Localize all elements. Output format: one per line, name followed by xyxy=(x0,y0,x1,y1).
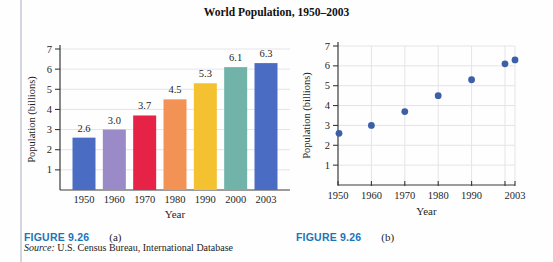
svg-text:5: 5 xyxy=(325,80,330,91)
svg-text:Population (billions): Population (billions) xyxy=(26,76,38,163)
scatter-plot: 1234567195019601970198019902003YearPopul… xyxy=(300,34,544,226)
svg-text:7: 7 xyxy=(325,41,330,52)
svg-text:6: 6 xyxy=(47,64,52,75)
svg-text:6.3: 6.3 xyxy=(259,48,272,59)
svg-text:2: 2 xyxy=(325,140,330,151)
figure-sublabel-b: (b) xyxy=(381,231,394,243)
svg-text:3: 3 xyxy=(47,124,52,135)
svg-text:1990: 1990 xyxy=(195,194,216,205)
svg-text:1970: 1970 xyxy=(394,190,415,201)
svg-text:2: 2 xyxy=(47,144,52,155)
svg-text:1: 1 xyxy=(325,160,330,171)
bar-chart: 12345672.619503.019603.719704.519805.319… xyxy=(24,36,296,228)
svg-text:1: 1 xyxy=(47,164,52,175)
svg-text:4: 4 xyxy=(47,104,53,115)
svg-text:2003: 2003 xyxy=(256,194,277,205)
svg-text:1950: 1950 xyxy=(74,194,95,205)
svg-text:1960: 1960 xyxy=(104,194,125,205)
svg-text:1970: 1970 xyxy=(134,194,155,205)
svg-text:2003: 2003 xyxy=(505,190,526,201)
svg-text:5: 5 xyxy=(47,84,52,95)
svg-text:2000: 2000 xyxy=(225,194,246,205)
svg-text:1990: 1990 xyxy=(461,190,482,201)
svg-text:1950: 1950 xyxy=(328,190,349,201)
source-label: Source: xyxy=(24,242,55,253)
svg-text:Year: Year xyxy=(165,208,186,220)
svg-text:4.5: 4.5 xyxy=(168,84,181,95)
svg-text:6.1: 6.1 xyxy=(229,52,242,63)
svg-text:4: 4 xyxy=(325,100,331,111)
svg-text:1960: 1960 xyxy=(361,190,382,201)
page-margin-rule xyxy=(20,0,22,262)
source-text: U.S. Census Bureau, International Databa… xyxy=(55,242,233,253)
svg-text:7: 7 xyxy=(47,44,52,55)
source-note: Source: U.S. Census Bureau, Internationa… xyxy=(24,242,233,253)
svg-text:Population (billions): Population (billions) xyxy=(301,72,313,159)
svg-text:2.6: 2.6 xyxy=(77,123,90,134)
figure-caption-b: FIGURE 9.26(b) xyxy=(296,227,394,245)
svg-text:5.3: 5.3 xyxy=(199,68,212,79)
svg-text:Year: Year xyxy=(416,205,437,217)
svg-text:6: 6 xyxy=(325,60,330,71)
svg-text:3.7: 3.7 xyxy=(138,100,151,111)
svg-text:1980: 1980 xyxy=(428,190,449,201)
svg-text:3: 3 xyxy=(325,120,330,131)
chart-title: World Population, 1950–2003 xyxy=(0,6,553,18)
figure-label-b: FIGURE 9.26 xyxy=(296,231,361,243)
svg-text:3.0: 3.0 xyxy=(108,115,121,126)
svg-text:1980: 1980 xyxy=(165,194,186,205)
